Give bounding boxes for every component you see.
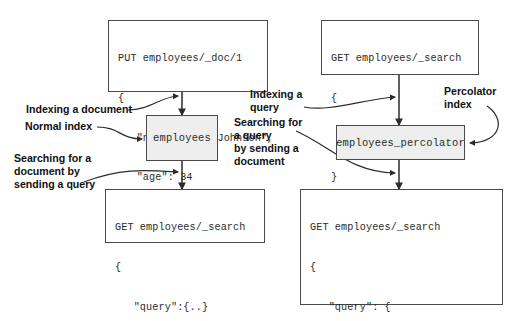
code-line: "query":{..} bbox=[115, 301, 264, 314]
code-box-get-employees-search-top: GET employees/_search { "query":{..} } bbox=[321, 20, 479, 75]
code-line: PUT employees/_doc/1 bbox=[118, 52, 267, 65]
node-employees-label: employees bbox=[153, 132, 211, 144]
node-employees: employees bbox=[146, 115, 218, 161]
code-line: "age": 34 bbox=[118, 171, 267, 184]
node-employees-percolator-label: employees_percolator bbox=[336, 137, 465, 149]
code-line: { bbox=[118, 92, 267, 105]
label-percolator-index: Percolator index bbox=[444, 85, 496, 111]
node-employees-percolator: employees_percolator bbox=[336, 125, 465, 160]
code-box-put-employees-doc: PUT employees/_doc/1 { "name":"Jack John… bbox=[108, 20, 268, 92]
code-line: GET employees/_search bbox=[310, 221, 502, 234]
label-indexing-a-document: Indexing a document bbox=[26, 103, 132, 116]
label-searching-for-a-query: Searching for a query by sending a docum… bbox=[234, 116, 302, 168]
code-line: GET employees/_search bbox=[331, 52, 478, 65]
label-indexing-a-query: Indexing a query bbox=[250, 88, 302, 114]
diagram-canvas: PUT employees/_doc/1 { "name":"Jack John… bbox=[0, 0, 528, 321]
code-line: { bbox=[310, 261, 502, 274]
code-line: GET employees/_search bbox=[115, 221, 264, 234]
label-normal-index: Normal index bbox=[25, 120, 92, 133]
label-searching-for-a-document: Searching for a document by sending a qu… bbox=[14, 152, 95, 191]
code-line: { bbox=[115, 261, 264, 274]
code-line: "query": { bbox=[310, 301, 502, 314]
code-line: } bbox=[331, 171, 478, 184]
code-box-get-employees-search-percolate: GET employees/_search { "query": { ... "… bbox=[300, 189, 503, 305]
code-box-get-employees-search-bottom: GET employees/_search { "query":{..} } bbox=[105, 189, 265, 243]
